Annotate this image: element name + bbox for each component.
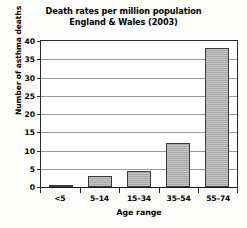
y-axis-tick-label: 40 <box>24 37 35 46</box>
y-axis-tick-label: 20 <box>24 110 35 119</box>
bar-35–54 <box>166 143 190 187</box>
x-axis-ticks <box>40 188 238 193</box>
bar-slot <box>80 41 119 187</box>
y-axis-tick-label: 15 <box>24 128 35 137</box>
asthma-death-rates-bar-chart: Death rates per million population Engla… <box>0 0 247 228</box>
x-axis-title: Age range <box>40 208 238 217</box>
bar-slot <box>198 41 237 187</box>
x-axis-tick-label: 55–74 <box>199 194 238 203</box>
y-axis-tick-label: 0 <box>30 183 35 192</box>
x-axis-tick <box>198 188 199 193</box>
x-axis-tick-label: 15–34 <box>119 194 158 203</box>
x-axis-tick-label: 35–54 <box>159 194 198 203</box>
bar-slot <box>41 41 80 187</box>
bar-<5 <box>49 185 73 187</box>
x-axis-tick-labels: <55–1415–3435–5455–74 <box>40 194 238 203</box>
bar-15–34 <box>127 171 151 187</box>
bar-5–14 <box>88 176 112 187</box>
chart-title-line-2: England & Wales (2003) <box>0 17 247 28</box>
y-axis-tick-label: 10 <box>24 146 35 155</box>
x-axis-tick <box>237 188 238 193</box>
bar-55–74 <box>205 48 229 187</box>
bar-slot <box>159 41 198 187</box>
y-axis-tick-label: 5 <box>30 164 35 173</box>
x-axis-tick <box>159 188 160 193</box>
x-axis-tick-label: <5 <box>40 194 79 203</box>
x-axis-tick <box>119 188 120 193</box>
x-axis-tick <box>40 188 41 193</box>
x-axis-tick <box>80 188 81 193</box>
y-axis-tick-label: 25 <box>24 91 35 100</box>
y-axis-tick-label: 35 <box>24 55 35 64</box>
bar-slot <box>120 41 159 187</box>
y-axis-tick-label: 30 <box>24 73 35 82</box>
bars-group <box>41 41 237 187</box>
y-axis-title: Number of asthma deaths <box>14 0 23 124</box>
x-axis-tick-label: 5–14 <box>80 194 119 203</box>
chart-title-line-1: Death rates per million population <box>46 6 202 16</box>
chart-title: Death rates per million population Engla… <box>0 6 247 27</box>
plot-area: 0510152025303540 <box>40 40 238 188</box>
